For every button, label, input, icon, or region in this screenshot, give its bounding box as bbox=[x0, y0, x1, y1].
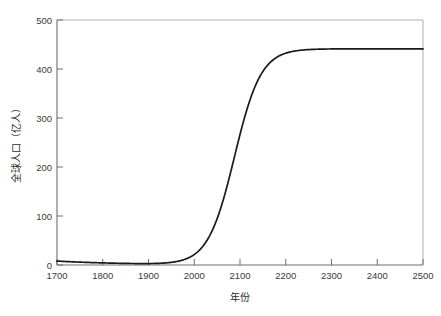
x-tick-label: 2100 bbox=[229, 270, 250, 281]
y-tick-label: 0 bbox=[47, 260, 52, 271]
y-tick-label: 100 bbox=[36, 211, 52, 222]
x-axis-title: 年份 bbox=[230, 291, 250, 303]
y-tick-label: 400 bbox=[36, 64, 52, 75]
x-tick-label: 2200 bbox=[275, 270, 296, 281]
population-growth-line-chart: 0 100 200 300 400 500 1700 1800 1900 200… bbox=[0, 0, 441, 316]
x-tick-label: 2300 bbox=[321, 270, 342, 281]
y-tick-label: 500 bbox=[36, 15, 52, 26]
x-tick-label: 2000 bbox=[184, 270, 205, 281]
chart-figure: 0 100 200 300 400 500 1700 1800 1900 200… bbox=[0, 0, 441, 316]
x-tick-label: 1700 bbox=[46, 270, 67, 281]
x-tick-label: 2400 bbox=[367, 270, 388, 281]
y-axis-title: 全球人口（亿人） bbox=[10, 103, 22, 183]
x-tick-label: 1900 bbox=[138, 270, 159, 281]
x-tick-label: 1800 bbox=[92, 270, 113, 281]
y-tick-label: 300 bbox=[36, 113, 52, 124]
plot-area-background bbox=[57, 20, 423, 265]
x-tick-label: 2500 bbox=[412, 270, 433, 281]
x-tick-labels: 1700 1800 1900 2000 2100 2200 2300 2400 … bbox=[46, 270, 433, 281]
y-tick-label: 200 bbox=[36, 162, 52, 173]
y-tick-labels: 0 100 200 300 400 500 bbox=[36, 15, 52, 271]
